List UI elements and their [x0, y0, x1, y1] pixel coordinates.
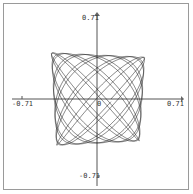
x-min-label: -0.71: [12, 101, 33, 108]
y-max-label: 0.71: [82, 15, 99, 22]
plot-canvas: [0, 0, 193, 194]
origin-label: 0: [97, 101, 101, 108]
x-max-label: 0.71: [167, 101, 184, 108]
y-min-label: -0.71: [79, 173, 100, 180]
